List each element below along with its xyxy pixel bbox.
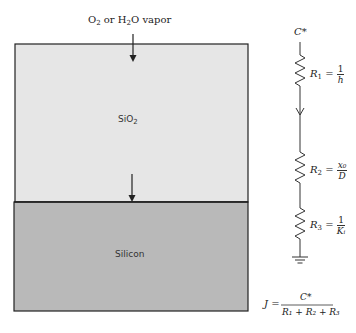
flux-numerator: C* [300,292,311,302]
flux-denominator: R₁ + R₂ + R₃ [282,307,340,317]
silicon-label: Silicon [115,249,144,259]
flux-lhs: J = [264,298,280,309]
resistor-r1-icon [295,55,305,86]
resistor-r3-icon [295,208,305,239]
r3-label: R3 = 1Kᵢ [310,215,345,236]
oxide-label: SiO2 [118,114,138,126]
r2-label: R2 = x₀D [310,160,347,181]
resistor-r2-icon [295,152,305,183]
resistor-circuit [292,42,308,263]
r1-label: R1 = 1h [310,64,344,85]
diagram-graphics [0,0,356,333]
gas-label: O2 or H2O vapor [88,14,171,27]
concentration-source-label: C* [294,26,307,37]
